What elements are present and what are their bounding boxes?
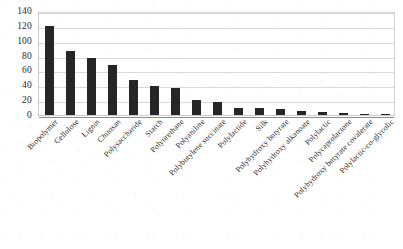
y-axis-tick-label: 80 bbox=[22, 52, 32, 62]
bar bbox=[192, 100, 201, 115]
bar-series bbox=[39, 13, 394, 115]
y-axis-tick-label: 40 bbox=[22, 82, 32, 92]
y-axis-tick-label: 0 bbox=[27, 111, 32, 121]
bar bbox=[66, 51, 75, 115]
bar bbox=[339, 113, 348, 115]
bar bbox=[255, 108, 264, 115]
x-axis-category-label: Silk bbox=[254, 118, 269, 133]
bar bbox=[381, 114, 390, 115]
bar bbox=[213, 102, 222, 115]
bar bbox=[108, 65, 117, 115]
y-axis-tick-label: 60 bbox=[22, 67, 32, 77]
bar bbox=[129, 80, 138, 115]
bar bbox=[150, 86, 159, 115]
plot-area bbox=[38, 12, 395, 116]
bar bbox=[276, 109, 285, 115]
bar-chart-figure: 020406080100120140 BiopolymerCelluloseLi… bbox=[0, 0, 403, 249]
bar bbox=[87, 58, 96, 115]
x-axis-category-labels: BiopolymerCelluloseLigninChitosanPolysac… bbox=[38, 118, 395, 249]
bar bbox=[297, 111, 306, 115]
bar bbox=[318, 112, 327, 115]
bar bbox=[234, 108, 243, 115]
y-axis-tick-labels: 020406080100120140 bbox=[0, 12, 36, 116]
x-axis-category-label: Biopolymer bbox=[26, 118, 59, 151]
y-axis-tick-label: 20 bbox=[22, 96, 32, 106]
y-axis-tick-label: 100 bbox=[17, 37, 32, 47]
bar bbox=[45, 26, 54, 115]
y-axis-tick-label: 120 bbox=[17, 22, 32, 32]
bar bbox=[360, 114, 369, 115]
bar bbox=[171, 88, 180, 115]
y-axis-tick-label: 140 bbox=[17, 7, 32, 17]
